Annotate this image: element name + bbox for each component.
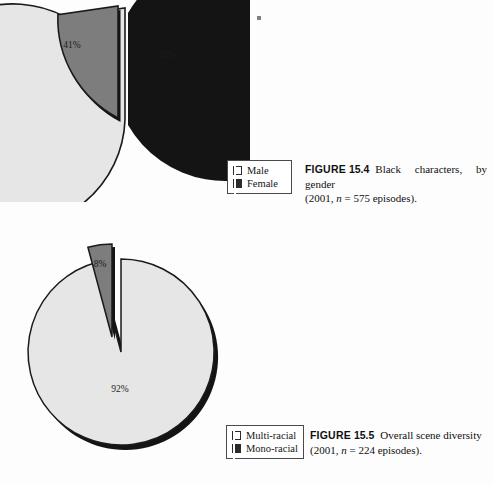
figure-number-15-4: 15.4 <box>349 163 369 175</box>
multi-racial-swatch-icon <box>232 431 241 440</box>
male-slice-shadow <box>128 0 250 181</box>
male-slice-value: 59% <box>158 50 176 60</box>
figure-number-15-5: 15.5 <box>354 429 374 441</box>
multi-racial-slice-value: 92% <box>111 384 129 394</box>
book-page: 41% 59% Male Female FIGURE15.4Black char… <box>0 0 494 485</box>
legend-label-multi-racial: Multi-racial <box>246 429 296 442</box>
legend-label-mono-racial: Mono-racial <box>246 442 298 455</box>
caption-source-prefix-15-4: (2001, <box>305 192 336 204</box>
female-swatch-icon <box>233 179 242 188</box>
female-slice-value: 41% <box>63 40 81 50</box>
pie-chart-15-4-svg: 41% 59% <box>0 0 250 202</box>
pie-chart-15-5: 8% 92% <box>8 233 253 458</box>
legend-item-male[interactable]: Male <box>233 164 284 177</box>
mono-racial-swatch-icon <box>232 444 241 453</box>
figure-label-15-4: FIGURE <box>305 163 346 175</box>
caption-source-suffix-15-5: = 224 episodes). <box>347 444 422 456</box>
male-swatch-icon <box>233 166 242 175</box>
pie-chart-15-5-svg: 8% 92% <box>8 233 253 458</box>
caption-15-4: FIGURE15.4Black characters, by gender (2… <box>305 162 487 206</box>
legend-item-female[interactable]: Female <box>233 177 284 190</box>
mono-racial-slice-value: 8% <box>94 259 107 269</box>
legend-15-4: Male Female <box>227 160 292 194</box>
legend-label-male: Male <box>247 164 269 177</box>
caption-text-15-5: Overall scene diversity <box>380 429 481 441</box>
caption-source-prefix-15-5: (2001, <box>310 444 341 456</box>
legend-label-female: Female <box>247 177 278 190</box>
multi-racial-slice <box>28 259 214 445</box>
legend-15-5: Multi-racial Mono-racial <box>226 425 304 459</box>
figure-label-15-5: FIGURE <box>310 429 351 441</box>
caption-source-suffix-15-4: = 575 episodes). <box>342 192 417 204</box>
legend-item-mono-racial[interactable]: Mono-racial <box>232 442 296 455</box>
scan-speck-artifact <box>257 16 261 20</box>
caption-15-5: FIGURE15.5Overall scene diversity (2001,… <box>310 428 488 457</box>
legend-item-multi-racial[interactable]: Multi-racial <box>232 429 296 442</box>
pie-chart-15-4: 41% 59% <box>0 0 250 202</box>
